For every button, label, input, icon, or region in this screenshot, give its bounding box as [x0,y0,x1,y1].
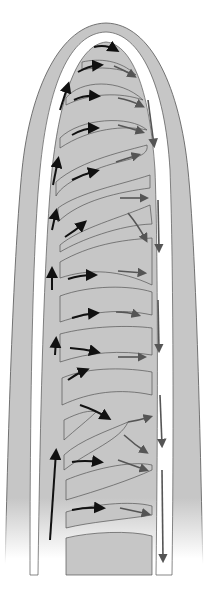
villus-flow-diagram [0,0,215,590]
